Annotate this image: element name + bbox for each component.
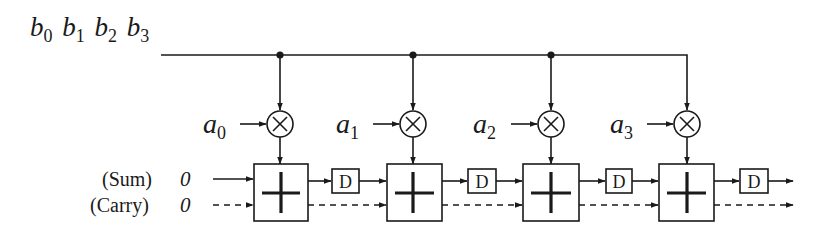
adder-block	[387, 164, 442, 221]
coefficient-label-a3: a3	[610, 108, 633, 143]
svg-text:b0 b1 b2: b0 b1 b2 b3	[30, 12, 149, 48]
svg-text:(Sum): (Sum)	[102, 168, 152, 191]
multiplier-icon	[674, 111, 700, 137]
coefficient-label-a0: a0	[203, 108, 226, 143]
delay-block: D	[740, 169, 768, 193]
svg-text:D: D	[339, 172, 352, 192]
svg-text:0: 0	[180, 193, 191, 217]
bus-label: b0 b1 b2 b3	[30, 12, 149, 48]
stage-3: a3 D	[610, 108, 793, 221]
delay-block: D	[332, 169, 359, 193]
svg-text:0: 0	[180, 167, 191, 191]
svg-text:D: D	[613, 172, 626, 192]
svg-text:D: D	[748, 172, 761, 192]
input-bus-line	[161, 55, 687, 110]
adder-block	[523, 164, 579, 221]
multiplier-icon	[538, 111, 564, 137]
coefficient-label-a2: a2	[473, 108, 496, 143]
svg-text:(Carry): (Carry)	[90, 194, 149, 217]
multiplier-icon	[400, 111, 426, 137]
sum-input: (Sum) 0	[102, 167, 253, 191]
multiplier-icon	[267, 111, 293, 137]
diagram-canvas: b0 b1 b2 b3 a0	[0, 0, 835, 233]
systolic-array-diagram: b0 b1 b2 b3 a0	[0, 0, 835, 233]
delay-block: D	[606, 169, 632, 193]
delay-block: D	[468, 169, 496, 193]
svg-text:D: D	[476, 172, 489, 192]
carry-input: (Carry) 0	[90, 193, 253, 217]
adder-block	[659, 164, 714, 221]
adder-block	[254, 164, 308, 221]
coefficient-label-a1: a1	[336, 108, 359, 143]
